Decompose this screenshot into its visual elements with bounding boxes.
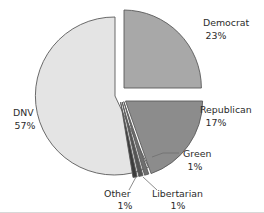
slice-label-other: Other xyxy=(104,188,131,199)
slice-value-green: 1% xyxy=(188,161,203,172)
slice-value-dnv: 57% xyxy=(15,120,36,131)
slice-label-libertarian: Libertarian xyxy=(152,188,203,199)
slice-value-republican: 17% xyxy=(206,117,227,128)
slice-label-republican: Republican xyxy=(200,104,252,115)
pie-slice-democrat[interactable] xyxy=(124,10,201,88)
slice-value-other: 1% xyxy=(118,200,133,211)
slice-value-democrat: 23% xyxy=(206,30,227,41)
slice-label-democrat: Democrat xyxy=(203,17,250,28)
pie-chart-svg: Democrat 23% Republican 17% Green 1% Lib… xyxy=(0,0,264,213)
slice-label-green: Green xyxy=(183,148,211,159)
slice-value-libertarian: 1% xyxy=(171,200,186,211)
slice-label-dnv: DNV xyxy=(13,107,34,118)
bottom-rule xyxy=(0,212,264,213)
pie-chart: Democrat 23% Republican 17% Green 1% Lib… xyxy=(0,0,264,213)
